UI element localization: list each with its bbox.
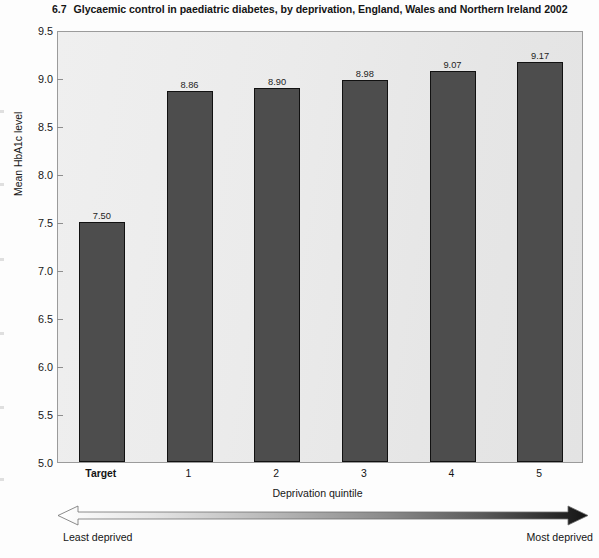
y-tick-mark	[57, 271, 63, 272]
bar-value-label: 8.98	[335, 69, 395, 79]
chart-title-number: 6.7	[52, 3, 67, 15]
bar-value-label: 7.50	[72, 211, 132, 221]
y-tick-mark	[57, 223, 63, 224]
y-tick-mark	[57, 127, 63, 128]
bar-value-label: 9.17	[510, 51, 570, 61]
x-axis-title: Deprivation quintile	[0, 487, 599, 499]
y-tick-label: 7.5	[9, 217, 53, 229]
bar-value-label: 8.90	[247, 77, 307, 87]
y-tick-mark	[57, 415, 63, 416]
y-tick-label: 5.5	[9, 409, 53, 421]
chart-title: 6.7Glycaemic control in paediatric diabe…	[52, 3, 597, 15]
arrow-caption-most: Most deprived	[526, 531, 593, 543]
x-tick-label: 2	[236, 468, 316, 479]
y-tick-mark	[57, 175, 63, 176]
x-tick-label: 3	[324, 468, 404, 479]
x-tick-label: 4	[412, 468, 492, 479]
bar	[254, 88, 300, 462]
bar-value-label: 9.07	[423, 60, 483, 70]
bar	[167, 91, 213, 462]
chart-title-text: Glycaemic control in paediatric diabetes…	[74, 3, 568, 15]
bar	[517, 62, 563, 462]
x-tick-label: Target	[61, 468, 141, 479]
chart-page: 6.7Glycaemic control in paediatric diabe…	[0, 0, 599, 558]
y-axis: 9.59.08.58.07.57.06.56.05.55.0	[0, 0, 53, 558]
bar-value-label: 8.86	[160, 80, 220, 90]
y-axis-title: Mean HbA1c level	[13, 112, 24, 196]
bar	[342, 80, 388, 462]
x-tick-label: 5	[499, 468, 579, 479]
arrow-caption-least: Least deprived	[63, 531, 133, 543]
bar	[430, 71, 476, 462]
y-tick-mark	[57, 367, 63, 368]
bar	[79, 222, 125, 462]
deprivation-gradient-arrow	[58, 505, 588, 531]
y-tick-label: 5.0	[9, 457, 53, 469]
y-tick-label: 6.5	[9, 313, 53, 325]
y-tick-mark	[57, 79, 63, 80]
x-tick-label: 1	[149, 468, 229, 479]
y-tick-label: 9.5	[9, 25, 53, 37]
y-tick-label: 6.0	[9, 361, 53, 373]
y-tick-label: 7.0	[9, 265, 53, 277]
y-tick-mark	[57, 319, 63, 320]
bars-layer: 7.508.868.908.989.079.17	[58, 32, 582, 462]
y-tick-label: 9.0	[9, 73, 53, 85]
x-axis-title-text: Deprivation quintile	[272, 487, 362, 499]
